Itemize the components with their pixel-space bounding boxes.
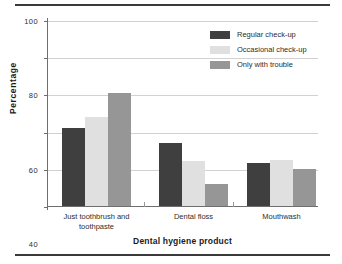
legend-swatch-icon [210,61,230,69]
y-axis-line [47,18,48,210]
y-axis-tick: 100 [44,21,47,22]
bar [159,143,182,206]
legend-item: Regular check-up [210,28,307,41]
bar [205,184,228,206]
x-axis-group-separator [144,202,145,207]
legend-item: Only with trouble [210,58,307,71]
x-axis-title: Dental hygiene product [47,236,318,246]
chart-legend: Regular check-up Occasional check-up Onl… [210,28,307,73]
y-axis-tick-label: 60 [29,165,38,174]
bar [108,93,131,206]
y-axis-tick: 20 [44,170,47,171]
bar [85,117,108,206]
bar [293,169,316,206]
y-axis-tick: 40 [44,133,47,134]
figure-top-rule [15,4,330,6]
figure-bottom-rule [15,254,330,256]
y-axis-tick: 60 [44,95,47,96]
legend-swatch-icon [210,46,230,54]
legend-item: Occasional check-up [210,43,307,56]
bar-group: Just toothbrush andtoothpaste [62,20,131,206]
bar [62,128,85,206]
y-axis-tick-label: 80 [29,91,38,100]
y-axis-tick-label: 40 [29,240,38,249]
bar [270,160,293,207]
x-axis-line [47,206,318,207]
legend-label: Occasional check-up [237,45,307,54]
legend-label: Regular check-up [237,30,296,39]
y-axis-tick: 0 [44,207,47,208]
figure: Percentage Dental hygiene product 020406… [0,0,342,264]
legend-label: Only with trouble [237,60,293,69]
bar [247,163,270,206]
x-axis-group-separator [233,202,234,207]
y-axis-title: Percentage [8,62,18,114]
bar [182,161,205,206]
y-axis-tick: 80 [44,58,47,59]
x-axis-category-label: Mouthwash [217,212,342,222]
legend-swatch-icon [210,31,230,39]
y-axis-tick-label: 100 [24,17,38,26]
